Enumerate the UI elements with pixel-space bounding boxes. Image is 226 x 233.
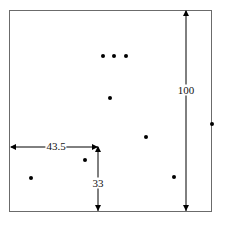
data-point [29,176,33,180]
data-point [112,54,116,58]
figure-root: 100 43.5 33 [0,0,226,233]
data-point [172,175,176,179]
data-point [83,158,87,162]
dimension-label-offset-43-5: 43.5 [45,141,66,152]
data-point [144,135,148,139]
dimension-label-height-100: 100 [177,85,196,96]
plate-outline [9,10,212,212]
data-point [108,96,112,100]
data-point [124,54,128,58]
data-point [101,54,105,58]
data-point [210,122,214,126]
dimension-label-offset-33: 33 [92,178,105,189]
